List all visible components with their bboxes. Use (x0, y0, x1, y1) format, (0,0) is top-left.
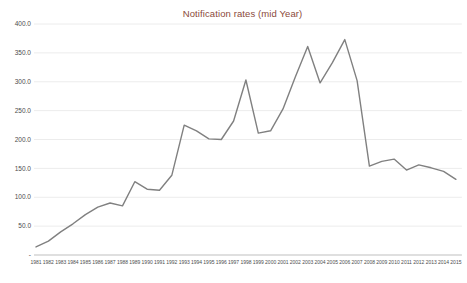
x-tick-label: 2003 (302, 259, 313, 265)
x-tick-label: 2004 (314, 259, 325, 265)
x-tick-label: 1985 (80, 259, 91, 265)
x-tick-label: 2002 (290, 259, 301, 265)
x-tick-label: 2005 (327, 259, 338, 265)
x-tick-label: 1999 (253, 259, 264, 265)
series-group (36, 40, 456, 247)
x-tick-label: 2001 (277, 259, 288, 265)
x-tick-label: 1994 (191, 259, 202, 265)
y-tick-label: - (29, 251, 31, 258)
x-tick-label: 2013 (426, 259, 437, 265)
x-tick-label: 2012 (413, 259, 424, 265)
x-tick-label: 1993 (179, 259, 190, 265)
y-tick-label: 400.0 (15, 20, 32, 27)
x-tick-label: 2008 (364, 259, 375, 265)
y-axis-labels-group: -50.0100.0150.0200.0250.0300.0350.0400.0 (15, 20, 32, 258)
x-tick-label: 2010 (389, 259, 400, 265)
x-tick-label: 1992 (166, 259, 177, 265)
x-tick-label: 2009 (376, 259, 387, 265)
y-tick-label: 250.0 (15, 107, 32, 114)
x-axis-labels-group: 1981198219831984198519861987198819891990… (30, 259, 461, 265)
y-tick-label: 350.0 (15, 49, 32, 56)
x-tick-label: 1982 (43, 259, 54, 265)
x-tick-label: 2015 (450, 259, 461, 265)
line-chart-svg: -50.0100.0150.0200.0250.0300.0350.0400.0… (0, 0, 467, 283)
y-tick-label: 100.0 (15, 193, 32, 200)
x-tick-label: 1996 (216, 259, 227, 265)
x-tick-label: 1983 (55, 259, 66, 265)
notification-rates-chart: Notification rates (mid Year) -50.0100.0… (0, 0, 467, 283)
x-tick-label: 1986 (92, 259, 103, 265)
y-tick-label: 200.0 (15, 136, 32, 143)
y-tick-label: 300.0 (15, 78, 32, 85)
x-tick-label: 1995 (203, 259, 214, 265)
x-tick-label: 2011 (401, 259, 412, 265)
x-tick-label: 1997 (228, 259, 239, 265)
x-tick-label: 1981 (30, 259, 41, 265)
gridlines-group (34, 24, 462, 255)
x-tick-label: 2006 (339, 259, 350, 265)
x-tick-label: 2014 (438, 259, 449, 265)
x-tick-label: 1987 (105, 259, 116, 265)
y-tick-label: 50.0 (18, 222, 31, 229)
y-tick-label: 150.0 (15, 165, 32, 172)
x-tick-label: 1998 (240, 259, 251, 265)
x-tick-label: 1988 (117, 259, 128, 265)
x-tick-label: 1990 (142, 259, 153, 265)
x-tick-label: 1984 (67, 259, 78, 265)
x-tick-label: 1991 (154, 259, 165, 265)
x-tick-label: 2007 (352, 259, 363, 265)
x-tick-label: 2000 (265, 259, 276, 265)
x-tick-label: 1989 (129, 259, 140, 265)
notification-rates-line (36, 40, 456, 247)
